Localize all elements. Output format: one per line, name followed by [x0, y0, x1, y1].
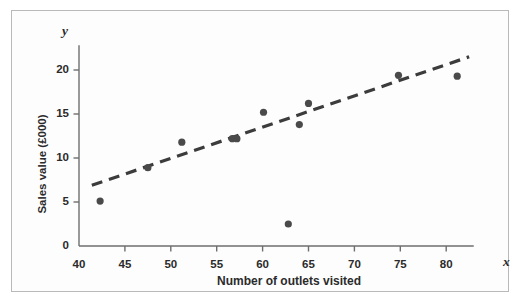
- y-tick-label: 0: [33, 240, 69, 252]
- data-point: [97, 198, 104, 205]
- x-axis-symbol: x: [503, 254, 510, 270]
- x-tick-label: 65: [302, 259, 315, 271]
- data-point: [178, 139, 185, 146]
- data-point: [233, 135, 240, 142]
- y-axis-symbol: y: [62, 23, 68, 39]
- x-tick-label: 60: [256, 259, 269, 271]
- x-tick-label: 80: [440, 259, 453, 271]
- x-tick-label: 75: [394, 259, 407, 271]
- data-points: [97, 72, 461, 228]
- x-tick-label: 55: [210, 259, 223, 271]
- data-point: [285, 220, 292, 227]
- y-tick-label: 10: [33, 152, 69, 164]
- x-axis-label: Number of outlets visited: [79, 274, 499, 288]
- axes-group: [74, 45, 474, 251]
- x-tick-label: 50: [164, 259, 177, 271]
- x-tick-label: 70: [348, 259, 361, 271]
- data-point: [395, 72, 402, 79]
- y-tick-label: 5: [33, 196, 69, 208]
- x-tick-label: 45: [118, 259, 131, 271]
- y-tick-label: 15: [33, 108, 69, 120]
- data-point: [296, 121, 303, 128]
- data-point: [454, 73, 461, 80]
- data-point: [144, 164, 151, 171]
- scatter-plot-figure: y x Sales value (£000) Number of outlets…: [0, 0, 522, 307]
- x-tick-label: 40: [73, 259, 86, 271]
- data-point: [305, 100, 312, 107]
- data-point: [260, 109, 267, 116]
- y-tick-label: 20: [33, 64, 69, 76]
